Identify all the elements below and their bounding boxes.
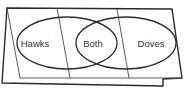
doves-label: Doves xyxy=(138,38,165,49)
venn-diagram-folded-paper: Hawks Both Doves xyxy=(0,0,187,94)
hawks-label: Hawks xyxy=(21,38,50,49)
fold-line-right xyxy=(117,9,129,78)
both-label: Both xyxy=(83,38,103,49)
fold-line-left xyxy=(57,8,70,78)
